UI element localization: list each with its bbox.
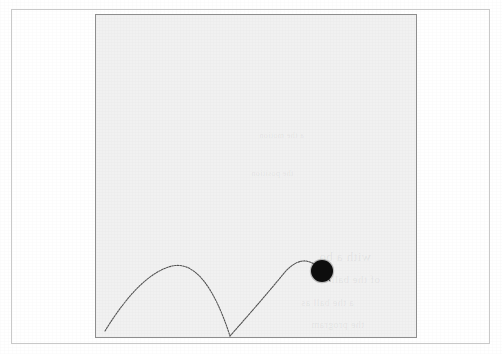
figure-grain-texture: [96, 15, 416, 337]
showthrough-text: the position: [251, 169, 293, 178]
showthrough-text: with a bo: [319, 249, 371, 265]
figure-frame: with a bo of the ball a the ball as the …: [95, 14, 417, 338]
showthrough-text: the program: [311, 319, 364, 330]
showthrough-text: of the ball: [331, 273, 380, 285]
showthrough-text: a the motion: [259, 131, 304, 140]
scanned-page: with a bo of the ball a the ball as the …: [0, 0, 502, 354]
showthrough-text: a the ball as: [301, 297, 354, 308]
